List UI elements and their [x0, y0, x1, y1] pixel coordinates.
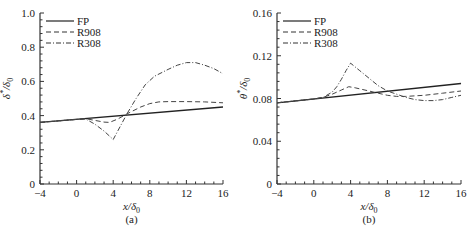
y-axis-title: δ*/δ0: [0, 78, 15, 99]
panel-label: (b): [363, 213, 376, 226]
x-tick-label: 0: [311, 187, 317, 199]
chart-panel-b: −4048121600.040.080.120.16x/δ0θ*/δ0(b)FP…: [236, 7, 467, 226]
x-tick-label: 8: [385, 187, 391, 199]
x-tick-label: 16: [218, 187, 230, 199]
y-tick-label: 0.08: [253, 93, 273, 105]
legend-item-r308: R308: [283, 37, 338, 49]
figure: −4048121600.20.40.60.81.0x/δ0δ*/δ0(a)FPR…: [0, 0, 471, 233]
y-tick-label: 0.16: [253, 7, 273, 19]
x-tick-label: 4: [348, 187, 354, 199]
y-axis-title: θ*/δ0: [236, 78, 252, 100]
panel-label: (a): [125, 213, 138, 226]
y-tick-label: 1.0: [21, 7, 35, 19]
x-tick-label: 8: [147, 187, 153, 199]
legend-label: R308: [77, 37, 101, 49]
series-r308-line: [40, 63, 223, 140]
x-tick-label: −4: [34, 187, 46, 199]
y-tick-label: 0.8: [21, 41, 35, 53]
y-tick-label: 0.2: [21, 144, 35, 156]
x-tick-label: −4: [271, 187, 283, 199]
y-tick-label: 0.6: [21, 75, 35, 87]
y-tick-label: 0.12: [253, 50, 272, 62]
legend-item-r308: R308: [46, 37, 101, 49]
y-tick-label: 0: [267, 178, 273, 190]
x-tick-label: 12: [419, 187, 430, 199]
y-tick-label: 0.04: [253, 135, 273, 147]
chart-panel-a: −4048121600.20.40.60.81.0x/δ0δ*/δ0(a)FPR…: [0, 7, 229, 226]
x-tick-label: 16: [456, 187, 468, 199]
y-tick-label: 0.4: [21, 110, 35, 122]
x-tick-label: 12: [181, 187, 192, 199]
y-tick-label: 0: [30, 178, 36, 190]
x-tick-label: 0: [74, 187, 80, 199]
legend-label: R308: [314, 37, 338, 49]
series-r908-line: [40, 102, 223, 123]
series-r308-line: [277, 63, 461, 103]
x-tick-label: 4: [110, 187, 116, 199]
